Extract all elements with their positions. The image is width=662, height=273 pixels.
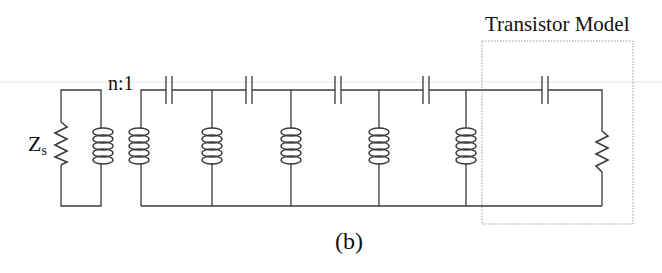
circuit-diagram: [0, 0, 662, 273]
figure-caption: (b): [335, 228, 363, 255]
shunt-inductor-3: [369, 128, 389, 164]
capacitor-2: [246, 76, 252, 104]
shunt-inductor-2: [281, 128, 301, 164]
capacitor-3: [335, 76, 341, 104]
capacitor-5: [542, 76, 548, 104]
capacitor-1: [166, 76, 172, 104]
shunt-inductor-4: [456, 128, 476, 164]
capacitor-4: [423, 76, 429, 104]
source-impedance-label: Zs: [28, 131, 47, 159]
transistor-resistor: [596, 131, 608, 172]
zs-subscript: s: [41, 143, 46, 158]
transformer-ratio-label: n:1: [108, 72, 134, 95]
zs-symbol: Z: [28, 131, 41, 156]
transformer-primary-coil: [93, 128, 113, 164]
shunt-inductor-1: [202, 128, 222, 164]
transformer-secondary-coil: [129, 128, 149, 164]
transistor-model-label: Transistor Model: [485, 12, 630, 37]
source-resistor-zs: [55, 122, 67, 165]
shunt-inductor-wires: [212, 90, 466, 206]
transistor-model-box: [482, 41, 633, 224]
